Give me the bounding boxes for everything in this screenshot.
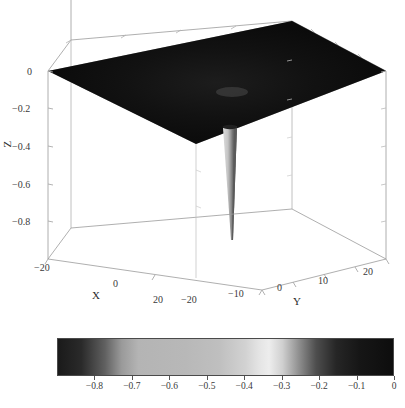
x-tick-label-20: 20 — [153, 294, 163, 305]
x-tick-label-0: 0 — [113, 278, 118, 289]
z-tick-label-0: 0 — [27, 66, 32, 77]
y-tick-label-m10: −10 — [228, 288, 244, 299]
y-tick-label-10: 10 — [318, 275, 328, 286]
y-axis-title: Y — [293, 295, 301, 307]
z-tick-label-m04: −0.4 — [12, 141, 30, 152]
z-tick-label-m02: −0.2 — [12, 103, 30, 114]
x-tick-label-m20: −20 — [34, 262, 50, 273]
colorbar: −0.8−0.7−0.6−0.5−0.4−0.3−0.2−0.10 — [57, 338, 394, 376]
z-tick-label-m06: −0.6 — [12, 179, 30, 190]
colorbar-ticks: −0.8−0.7−0.6−0.5−0.4−0.3−0.2−0.10 — [57, 376, 394, 398]
surface-hotspot — [216, 87, 248, 97]
colorbar-tick-label: −0.2 — [310, 380, 327, 392]
surface-plane-sheen — [48, 21, 386, 144]
colorbar-gradient — [57, 338, 394, 376]
y-tick-label-0: 0 — [277, 282, 282, 293]
y-tick-label-m20: −20 — [181, 294, 197, 305]
colorbar-tick-label: −0.7 — [123, 380, 140, 392]
surface-plot-svg — [0, 0, 405, 320]
colorbar-tick-label: −0.6 — [161, 380, 178, 392]
colorbar-tick-label: −0.3 — [273, 380, 290, 392]
z-tick-label-m08: −0.8 — [12, 216, 30, 227]
z-axis-ticks — [48, 71, 53, 222]
colorbar-tick-label: −0.4 — [236, 380, 253, 392]
spike-base — [223, 125, 238, 129]
right-edge-ticks — [381, 71, 386, 222]
colorbar-tick-label: −0.1 — [348, 380, 365, 392]
z-axis-title: Z — [1, 136, 13, 152]
colorbar-tick-label: 0 — [392, 380, 397, 392]
y-tick-label-20: 20 — [363, 266, 373, 277]
surface-plot-axes: 0 −0.2 −0.4 −0.6 −0.8 Z −20 0 20 X −20 −… — [0, 0, 405, 320]
colorbar-tick-label: −0.8 — [86, 380, 103, 392]
x-axis-title: X — [92, 289, 100, 301]
matplotlib-figure: 0 −0.2 −0.4 −0.6 −0.8 Z −20 0 20 X −20 −… — [0, 0, 405, 408]
colorbar-tick-label: −0.5 — [198, 380, 215, 392]
